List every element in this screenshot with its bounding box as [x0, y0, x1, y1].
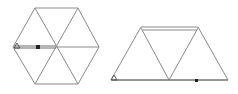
hexagon-path-marker: [36, 45, 40, 49]
trapezoid-inner-edge-1: [141, 28, 169, 80]
diagram-canvas: [0, 0, 238, 94]
trapezoid-inner-edge-2: [169, 28, 198, 80]
hexagon-figure: [13, 8, 99, 84]
geometry-diagram: [0, 0, 238, 94]
trapezoid-outline: [111, 27, 228, 80]
trapezoid-figure: [111, 27, 228, 82]
trapezoid-path-marker: [195, 79, 198, 82]
